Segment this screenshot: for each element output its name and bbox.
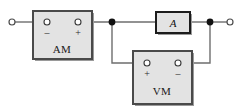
load-component[interactable]: A xyxy=(156,12,192,35)
load-label: A xyxy=(169,17,177,29)
right-junction-node xyxy=(207,19,214,26)
ammeter-plus-sign: + xyxy=(75,27,81,38)
left-junction-node xyxy=(109,19,116,26)
circuit-canvas: – + AM A + – VM xyxy=(0,0,242,110)
ammeter-plus-terminal[interactable] xyxy=(75,19,81,25)
voltmeter-minus-terminal[interactable] xyxy=(175,60,181,66)
ammeter-label: AM xyxy=(53,43,72,55)
ammeter-minus-terminal[interactable] xyxy=(44,19,50,25)
voltmeter-minus-sign: – xyxy=(175,68,182,79)
circuit-diagram: – + AM A + – VM xyxy=(0,0,242,110)
voltmeter-plus-sign: + xyxy=(144,68,150,79)
right-output-terminal[interactable] xyxy=(227,19,233,25)
voltmeter-plus-terminal[interactable] xyxy=(144,60,150,66)
ammeter-minus-sign: – xyxy=(44,27,51,38)
ammeter-component[interactable]: – + AM xyxy=(33,11,94,61)
voltmeter-label: VM xyxy=(153,85,172,97)
voltmeter-component[interactable]: + – VM xyxy=(133,51,194,106)
left-input-terminal[interactable] xyxy=(9,19,15,25)
